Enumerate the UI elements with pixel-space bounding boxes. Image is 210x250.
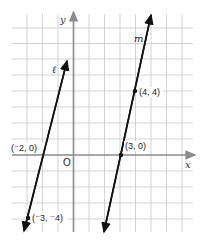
point-3-0 [119, 153, 123, 157]
point-label-neg3-neg4: (⁻3, ⁻4) [32, 213, 63, 223]
x-axis-label: x [185, 159, 191, 170]
coordinate-plane: y x O ℓ m (⁻2, 0) (⁻3, ⁻4) (4, 4) (3, 0) [0, 0, 210, 250]
point-label-4-4: (4, 4) [139, 87, 160, 97]
point-4-4 [133, 89, 137, 93]
line-l-label: ℓ [52, 64, 56, 75]
y-axis-label: y [59, 14, 66, 25]
origin-label: O [63, 157, 71, 168]
grid [12, 14, 193, 232]
point-label-3-0: (3, 0) [125, 141, 146, 151]
point-neg3-neg4 [26, 216, 30, 220]
point-label-neg2-0: (⁻2, 0) [11, 143, 37, 153]
line-m-label: m [134, 33, 143, 44]
